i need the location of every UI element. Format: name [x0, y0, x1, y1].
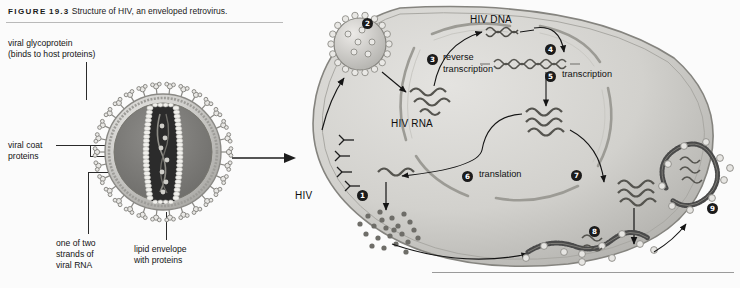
label-lipid-envelope: lipid envelope with proteins: [134, 244, 187, 266]
label-viral-coat-proteins: viral coat proteins: [8, 140, 42, 162]
leader-coat-bracket: [90, 145, 91, 156]
step-label-transcription: transcription: [562, 69, 612, 81]
figure-caption: FIGURE 19.3 Structure of HIV, an envelop…: [8, 6, 227, 17]
label-viral-glycoprotein: viral glycoprotein (binds to host protei…: [8, 38, 95, 60]
figure-19-3: FIGURE 19.3 Structure of HIV, an envelop…: [0, 0, 740, 288]
leader-coat-1: [56, 145, 90, 146]
label-viral-rna: one of two strands of viral RNA: [56, 238, 96, 272]
step-badge-1: 1: [357, 190, 368, 201]
label-hiv-dna: HIV DNA: [470, 14, 512, 26]
figure-label-word: FIGURE: [8, 7, 47, 16]
figure-number: 19.3: [49, 7, 69, 16]
host-cell-illustration: [282, 0, 740, 272]
leader-viral-rna: [88, 172, 89, 234]
step-badge-7: 7: [571, 170, 582, 181]
step-badge-2: 2: [362, 18, 373, 29]
figure-caption-text: Structure of HIV, an enveloped retroviru…: [72, 6, 228, 16]
step-badge-5: 5: [545, 71, 556, 82]
label-hiv-rna: HIV RNA: [391, 118, 433, 130]
caption-divider: [6, 22, 283, 23]
virion-illustration: [92, 78, 234, 226]
step-badge-4: 4: [545, 44, 556, 55]
step-badge-8: 8: [589, 226, 600, 237]
bottom-divider: [432, 272, 734, 273]
step-badge-9: 9: [707, 203, 718, 214]
step-label-translation: translation: [479, 169, 521, 181]
leader-glycoprotein: [86, 62, 87, 100]
step-badge-3: 3: [427, 54, 438, 65]
step-badge-6: 6: [462, 171, 473, 182]
step-label-reverse-transcription: reverse transcription: [443, 52, 493, 75]
label-hiv: HIV: [295, 190, 312, 202]
